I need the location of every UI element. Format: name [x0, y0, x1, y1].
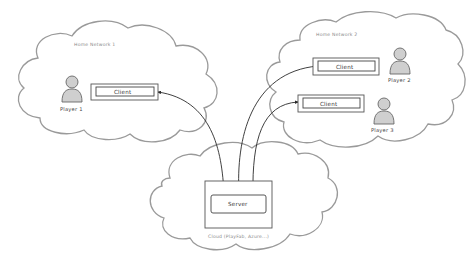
client-1-label: Client: [114, 89, 132, 95]
server-label: Server: [228, 201, 248, 207]
home-network-2-cloud: Home Network 2: [267, 12, 465, 147]
cloud-provider-label: Cloud (PlayFab, Azure...): [208, 234, 269, 239]
server-node: Server: [205, 181, 272, 228]
cloud-shape: [18, 21, 217, 142]
network-diagram: Home Network 1 Home Network 2 Cloud (Pla…: [0, 0, 468, 268]
client-2-label: Client: [336, 64, 354, 70]
player-2-label: Player 2: [388, 77, 411, 84]
player-3-label: Player 3: [371, 127, 394, 134]
client-3-label: Client: [320, 101, 338, 107]
client-1-node: Client: [91, 84, 158, 100]
home-network-2-label: Home Network 2: [316, 32, 357, 37]
client-2-node: Client: [313, 58, 379, 75]
client-3-node: Client: [298, 95, 364, 112]
cloud-shape: [267, 12, 465, 147]
home-network-1-label: Home Network 1: [74, 42, 115, 47]
home-network-1-cloud: Home Network 1: [18, 21, 217, 142]
player-1-label: Player 1: [60, 106, 83, 113]
